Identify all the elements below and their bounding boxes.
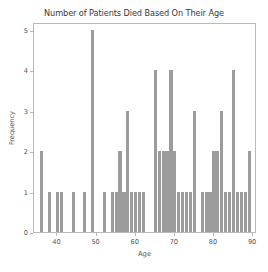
x-tick-mark [56, 233, 57, 236]
histogram-bar [212, 151, 215, 232]
histogram-bar [103, 192, 106, 232]
histogram-bar [115, 192, 118, 232]
x-tick-label: 40 [52, 238, 60, 246]
histogram-bar [56, 192, 59, 232]
x-axis-label: Age [33, 250, 256, 258]
y-tick-label: 4 [4, 67, 28, 75]
x-tick-mark [213, 233, 214, 236]
y-tick-label: 3 [4, 108, 28, 116]
x-tick-mark [252, 233, 253, 236]
histogram-bar [158, 151, 161, 232]
x-tick-label: 90 [248, 238, 256, 246]
histogram-bar [240, 192, 243, 232]
x-tick-label: 60 [131, 238, 139, 246]
histogram-bar [189, 192, 192, 232]
histogram-bar [142, 192, 145, 232]
x-tick-label: 80 [209, 238, 217, 246]
histogram-bar [130, 192, 133, 232]
histogram-bar [205, 192, 208, 232]
histogram-bar [126, 111, 129, 232]
y-tick-label: 5 [4, 27, 28, 35]
histogram-bar [173, 151, 176, 232]
histogram-bar [138, 192, 141, 232]
x-tick-label: 50 [91, 238, 99, 246]
y-tick-label: 1 [4, 189, 28, 197]
histogram-bar [232, 70, 235, 232]
histogram-bar [111, 192, 114, 232]
y-axis: Frequency 012345 [0, 23, 33, 233]
histogram-bar [216, 151, 219, 232]
histogram-bar [122, 192, 125, 232]
histogram-bar [60, 192, 63, 232]
bars-layer [34, 24, 255, 232]
histogram-bar [236, 192, 239, 232]
histogram-bar [181, 192, 184, 232]
histogram-bar [185, 192, 188, 232]
chart-title: Number of Patients Died Based On Their A… [0, 8, 268, 18]
histogram-bar [244, 192, 247, 232]
histogram-bar [48, 192, 51, 232]
histogram-bar [220, 111, 223, 232]
histogram-bar [248, 151, 251, 232]
histogram-bar [40, 151, 43, 232]
histogram-bar [154, 70, 157, 232]
histogram-bar [228, 192, 231, 232]
x-tick-mark [135, 233, 136, 236]
histogram-bar [165, 151, 168, 232]
plot-area [33, 23, 256, 233]
histogram-bar [118, 151, 121, 232]
histogram-bar [162, 151, 165, 232]
histogram-bar [72, 192, 75, 232]
histogram-bar [83, 192, 86, 232]
histogram-bar [177, 192, 180, 232]
histogram-bar [224, 192, 227, 232]
histogram-bar [91, 30, 94, 232]
y-tick-label: 2 [4, 148, 28, 156]
x-tick-label: 70 [170, 238, 178, 246]
histogram-bar [169, 70, 172, 232]
histogram-bar [208, 192, 211, 232]
y-tick-label: 0 [4, 229, 28, 237]
histogram-bar [201, 192, 204, 232]
histogram-bar [193, 111, 196, 232]
histogram-bar [134, 192, 137, 232]
x-tick-mark [174, 233, 175, 236]
x-tick-mark [96, 233, 97, 236]
histogram-figure: Number of Patients Died Based On Their A… [0, 0, 268, 272]
